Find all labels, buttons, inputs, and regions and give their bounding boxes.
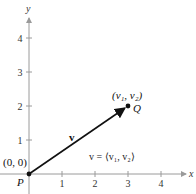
terminal-point-name-label: Q (133, 102, 141, 114)
vector-v-label: v (69, 131, 75, 143)
x-tick-label: 1 (60, 178, 65, 189)
x-tick-label: 3 (126, 178, 131, 189)
vector-v-arrow (29, 108, 125, 174)
x-tick-label: 4 (159, 178, 164, 189)
initial-point-coords-label: (0, 0) (3, 156, 27, 169)
terminal-point-Q (126, 104, 131, 109)
y-tick-label: 3 (18, 67, 23, 78)
terminal-point-coords-label: (v₁, v₂) (112, 89, 143, 102)
vector-diagram: x y 1234 1234 (0, 0) P (v₁, v₂) Q v v = … (0, 0, 196, 194)
y-tick-label: 2 (18, 101, 23, 112)
initial-point-P (27, 172, 32, 177)
y-tick-label: 4 (18, 33, 23, 44)
x-tick-label: 2 (93, 178, 98, 189)
x-axis-label: x (188, 168, 194, 179)
initial-point-name-label: P (16, 176, 24, 188)
component-form-label: v = ⟨v₁, v₂⟩ (89, 151, 135, 162)
y-tick-label: 1 (18, 135, 23, 146)
y-axis-label: y (25, 3, 31, 14)
